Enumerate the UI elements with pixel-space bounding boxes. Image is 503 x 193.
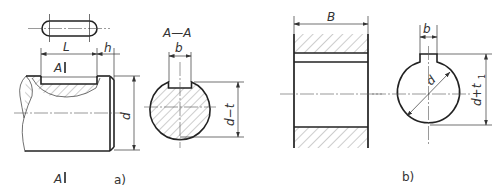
caption-a: a) [114, 173, 126, 187]
dimension-h: h [97, 41, 120, 80]
section-title: A—A [162, 26, 191, 40]
label-d-plus-t1: d+t 1 [470, 74, 487, 106]
dimension-L: L [41, 40, 97, 78]
label-b-shaft: b [175, 41, 183, 55]
key-top-view [28, 14, 110, 42]
panel-b: B b d [280, 10, 492, 184]
panel-a: L h A [14, 14, 244, 187]
section-mark-bottom: A [53, 172, 62, 186]
label-L: L [63, 40, 70, 54]
label-b-hub: b [423, 22, 431, 36]
label-d-shaft: d [119, 112, 133, 120]
section-a-a: A—A b d−t [144, 26, 244, 148]
section-mark-top: A [53, 61, 62, 75]
svg-text:1: 1 [478, 74, 487, 79]
label-d-minus-t: d−t [223, 102, 237, 126]
hub-side-view: B [280, 10, 382, 148]
label-h: h [104, 41, 112, 55]
shaft-side-view [14, 76, 122, 152]
svg-text:d+t: d+t [470, 82, 484, 106]
hub-section: b d d+t 1 [372, 22, 492, 146]
label-B: B [327, 10, 335, 24]
caption-b: b) [402, 170, 414, 184]
key-keyway-drawing: L h A [0, 0, 503, 193]
